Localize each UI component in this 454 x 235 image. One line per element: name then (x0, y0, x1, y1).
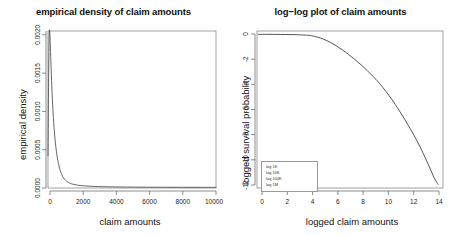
right-xtick-1: 2 (285, 198, 289, 205)
left-xtick-4: 8000 (176, 198, 191, 205)
right-xtick-0: 0 (260, 198, 264, 205)
panel-loglog: log−log plot of claim amounts logged sur… (227, 0, 454, 235)
right-ytick-0: 0 (242, 32, 249, 36)
right-y-axis: 0 -2 -4 -6 -8 -10 -12 (242, 32, 255, 190)
right-ytick-2: -4 (242, 81, 249, 87)
left-plot-frame (48, 31, 216, 188)
right-x-axis: 0 2 4 6 8 10 12 14 (260, 191, 443, 205)
right-ytick-6: -12 (242, 180, 249, 190)
left-ytick-1: 0.0005 (34, 139, 41, 159)
left-plot-svg: 0.0000 0.0005 0.0010 0.0015 0.0020 0 200… (0, 0, 227, 235)
right-ytick-3: -6 (242, 106, 249, 112)
left-xtick-3: 6000 (142, 198, 157, 205)
left-ytick-0: 0.0000 (34, 178, 41, 198)
figure-container: empirical density of claim amounts empir… (0, 0, 454, 235)
left-xtick-5: 10000 (205, 198, 223, 205)
left-xtick-1: 2000 (76, 198, 91, 205)
panel-empirical-density: empirical density of claim amounts empir… (0, 0, 227, 235)
right-ytick-5: -10 (242, 155, 249, 165)
right-ytick-1: -2 (242, 56, 249, 62)
left-y-axis: 0.0000 0.0005 0.0010 0.0015 0.0020 (34, 24, 46, 197)
left-ytick-4: 0.0020 (34, 24, 41, 44)
left-ytick-3: 0.0015 (34, 63, 41, 83)
left-xtick-2: 4000 (109, 198, 124, 205)
left-xtick-0: 0 (48, 198, 52, 205)
right-ytick-4: -8 (242, 131, 249, 137)
legend-item: log 1M (266, 182, 314, 188)
right-xtick-2: 4 (311, 198, 315, 205)
left-density-curve (48, 30, 216, 188)
right-plot-svg: 0 -2 -4 -6 -8 -10 -12 0 2 (227, 0, 454, 235)
left-ytick-2: 0.0010 (34, 101, 41, 121)
right-xtick-6: 12 (410, 198, 418, 205)
right-xtick-4: 8 (361, 198, 365, 205)
right-xtick-3: 6 (336, 198, 340, 205)
left-x-axis: 0 2000 4000 6000 8000 10000 (48, 191, 223, 205)
right-xtick-7: 14 (435, 198, 443, 205)
right-xtick-5: 10 (385, 198, 393, 205)
loglog-legend: log 1K log 10K log 100K log 1M (261, 161, 318, 192)
